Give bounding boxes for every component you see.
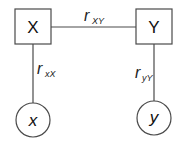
- edge-label-xX-sub: xX: [44, 69, 57, 79]
- edge-label-xX: r xX: [37, 60, 57, 79]
- node-x: x: [16, 103, 50, 137]
- node-X-label: X: [27, 18, 38, 37]
- node-X: X: [15, 9, 51, 44]
- edge-label-yY-main: r: [135, 64, 141, 81]
- edge-label-XY: r XY: [84, 7, 105, 26]
- edge-label-xX-main: r: [37, 60, 43, 77]
- edge-label-XY-main: r: [84, 7, 90, 24]
- edge-label-XY-sub: XY: [91, 16, 105, 26]
- node-x-label: x: [28, 111, 38, 130]
- edge-label-yY-sub: yY: [141, 73, 154, 83]
- edge-label-yY: r yY: [135, 64, 154, 83]
- node-Y: Y: [136, 9, 172, 44]
- node-Y-label: Y: [148, 18, 159, 37]
- node-y-label: y: [149, 108, 160, 127]
- path-diagram: X Y x y r XY r xX r yY: [0, 0, 181, 145]
- node-y: y: [137, 101, 171, 135]
